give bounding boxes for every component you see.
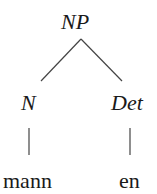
syntax-tree: NP N Det mann en [0,0,157,194]
edge-np-det [81,39,122,81]
edge-np-n [41,39,81,81]
node-det: Det [111,92,143,114]
node-np: NP [61,11,89,33]
leaf-mann: mann [3,170,52,192]
leaf-en: en [119,170,140,192]
node-n: N [21,92,36,114]
